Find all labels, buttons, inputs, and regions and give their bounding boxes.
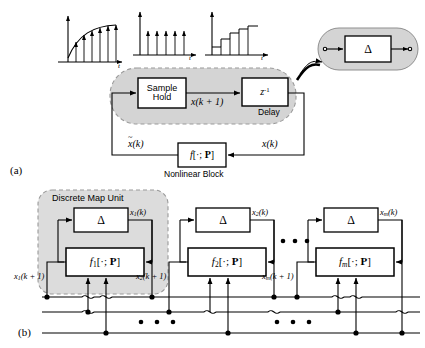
delay-block: z-1 xyxy=(242,78,288,106)
map-unit-2-input-label: x2(k + 1) xyxy=(136,272,166,282)
delta-symbol-3: Δ xyxy=(324,208,378,232)
delta-symbol-2: Δ xyxy=(196,208,250,232)
bus-vertical-taps xyxy=(88,297,356,333)
ellipsis-dots-bus-left xyxy=(139,320,176,325)
map-unit-2-output-label: x2(k) xyxy=(252,208,268,218)
delta-symbol-1: Δ xyxy=(74,208,128,232)
delay-caption: Delay xyxy=(258,108,280,117)
map-unit-3-input-label: xm(k + 1) xyxy=(262,272,294,282)
ellipsis-dots-units xyxy=(281,239,310,244)
waveform-continuous xyxy=(58,16,122,62)
map-unit-3-output-label: xm(k) xyxy=(380,208,397,218)
delta-inset-symbol: Δ xyxy=(345,36,391,62)
sample-hold-line2: Hold xyxy=(153,92,172,102)
map-fn-label-2: f2[·; P] xyxy=(188,248,266,276)
signal-output-label: x(k) xyxy=(262,139,278,149)
discrete-map-unit-title: Discrete Map Unit xyxy=(52,194,124,203)
waveform-staircase xyxy=(205,12,268,55)
map-fn-label-1: f1[·; P] xyxy=(66,248,144,276)
delay-exponent: -1 xyxy=(264,86,270,93)
sample-hold-block: Sample Hold xyxy=(138,78,186,108)
map-unit-1-output-label: x1(k) xyxy=(130,208,146,218)
nonlinear-block-label: f[·; P] xyxy=(190,150,214,161)
map-fn-label-3: fm[·; P] xyxy=(316,248,394,276)
callout-arrow-thick xyxy=(297,64,320,80)
waveform-1-axis-label: t xyxy=(118,63,120,70)
waveform-3-axis-label: t xyxy=(261,55,263,62)
waveform-impulse-train xyxy=(133,12,196,55)
nonlinear-block: f[·; P] xyxy=(178,143,226,167)
panel-b-label: (b) xyxy=(18,327,31,338)
ellipsis-dots-bus-right xyxy=(275,320,312,325)
signal-bus-lines xyxy=(42,296,420,333)
panel-a-label: (a) xyxy=(10,165,22,176)
signal-forward-label: x(k + 1) xyxy=(191,97,223,107)
bus-junction-dots xyxy=(44,294,404,335)
figure-root: t t t Sample Hold z-1 Delay x(k + 1) x(k… xyxy=(0,0,425,348)
signal-feedback-label: x(k) xyxy=(128,139,144,149)
waveform-2-axis-label: t xyxy=(189,55,191,62)
map-unit-1-input-label: x1(k + 1) xyxy=(14,272,44,282)
nonlinear-block-caption: Nonlinear Block xyxy=(164,170,224,179)
